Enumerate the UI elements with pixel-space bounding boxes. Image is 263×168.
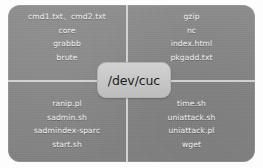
center-node-label: /dev/cuc xyxy=(108,73,160,88)
file-item: nc xyxy=(187,24,196,38)
directory-quadrant-diagram: cmd1.txt、cmd2.txt core grabbb brute gzip… xyxy=(0,0,263,168)
file-item: grabbb xyxy=(53,37,81,51)
file-item: brute xyxy=(57,51,78,65)
file-item: start.sh xyxy=(52,138,82,152)
file-item: cmd1.txt、cmd2.txt xyxy=(28,10,106,24)
file-item: core xyxy=(59,24,76,38)
file-item: gzip xyxy=(183,10,199,24)
center-node: /dev/cuc xyxy=(97,62,171,98)
file-item: sadmin.sh xyxy=(47,111,87,125)
file-item: ranip.pl xyxy=(52,97,82,111)
file-item: wget xyxy=(182,138,201,152)
file-item: pkgadd.txt xyxy=(170,51,212,65)
file-item: uniattack.pl xyxy=(168,124,214,138)
file-item: index.html xyxy=(171,37,213,51)
file-item: uniattack.sh xyxy=(168,111,216,125)
file-item: time.sh xyxy=(177,97,206,111)
file-item: sadmindex-sparc xyxy=(34,124,100,138)
